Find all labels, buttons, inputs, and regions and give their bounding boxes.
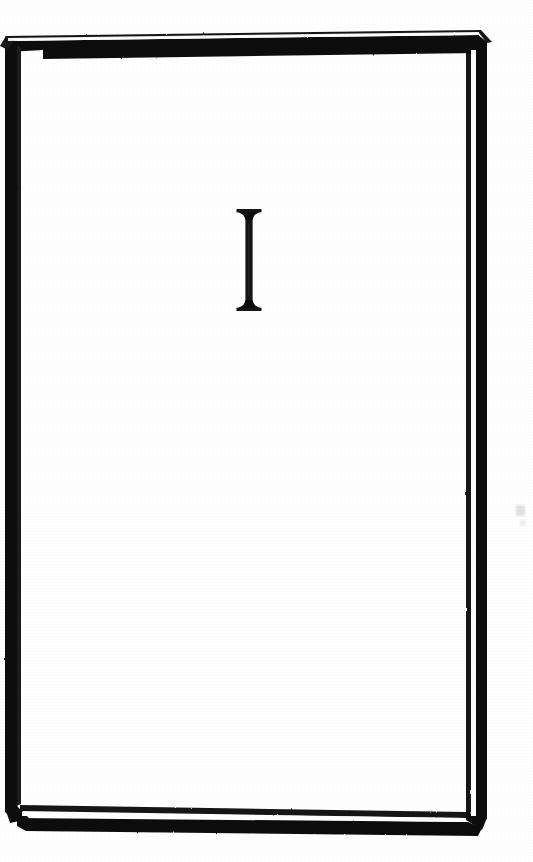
frame-left-inner-edge [17, 45, 21, 806]
decorative-border-frame [0, 0, 533, 862]
initial-ink-group [237, 209, 262, 311]
frame-right-gap-highlight [471, 50, 476, 816]
drop-cap-initial: I [213, 200, 285, 320]
scan-smudge-secondary [520, 520, 525, 526]
frame-ink-group [0, 30, 492, 836]
scanned-page: Chapter opening plate [0, 0, 533, 862]
initial-stem-highlight [248, 224, 249, 296]
frame-right-band [476, 42, 487, 828]
scan-smudge [516, 505, 525, 516]
frame-right-inner-rule [466, 48, 471, 818]
